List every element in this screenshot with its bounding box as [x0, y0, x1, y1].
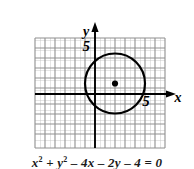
equation-minus-2: – [94, 155, 108, 169]
coordinate-plane: 5 5 x y [0, 0, 194, 158]
equation-minus-1: – [67, 155, 81, 169]
equation-caption: x2 + y2 – 4x – 2y – 4 = 0 [0, 156, 194, 169]
equation-minus-3: – [121, 155, 135, 169]
equation-constant: 4 [134, 155, 141, 169]
circle-graph-figure: 5 5 x y x2 + y2 – 4x – 2y – 4 = 0 [0, 0, 194, 169]
y-axis-tick-label-5: 5 [83, 38, 91, 54]
x-axis-label: x [174, 90, 182, 105]
equation-term-y-squared: y2 [57, 155, 67, 169]
equation-term-2y: 2y [108, 155, 121, 169]
circle-center-point [112, 80, 118, 86]
equation-rhs: 0 [156, 155, 163, 169]
y-axis-arrowhead [91, 22, 98, 32]
x-axis-tick-label-5: 5 [142, 93, 150, 109]
y-axis-label: y [81, 24, 90, 39]
equation-equals: = [141, 155, 156, 169]
equation-term-x-squared: x2 [32, 155, 43, 169]
equation-plus: + [43, 155, 58, 169]
equation-term-4x: 4x [81, 155, 94, 169]
graph-svg: 5 5 x y [0, 0, 194, 158]
